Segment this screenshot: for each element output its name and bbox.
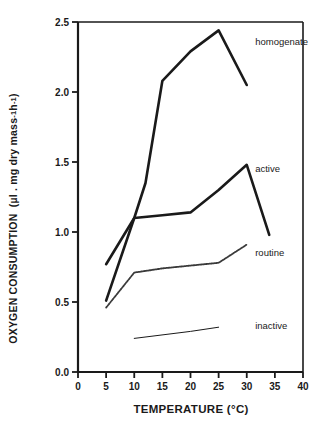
x-axis-label: TEMPERATURE (°C): [78, 403, 304, 415]
y-tick-label: 0.0: [55, 367, 69, 378]
series-line-active: [106, 165, 269, 301]
series-line-homogenate: [106, 30, 247, 264]
x-tick-label: 0: [75, 381, 81, 392]
plot-area: 0.00.51.01.52.02.50510152025303540 homog…: [0, 0, 325, 437]
y-tick-label: 0.5: [55, 297, 69, 308]
y-tick-label: 1.0: [55, 227, 69, 238]
y-tick-label: 1.5: [55, 157, 69, 168]
axis-layer: 0.00.51.01.52.02.50510152025303540: [55, 17, 309, 392]
series-label-routine: routine: [255, 247, 284, 258]
x-tick-label: 10: [129, 381, 141, 392]
series-label-homogenate: homogenate: [255, 36, 308, 47]
y-tick-label: 2.0: [55, 87, 69, 98]
x-tick-label: 30: [241, 381, 253, 392]
x-tick-label: 20: [185, 381, 197, 392]
x-tick-label: 40: [297, 381, 309, 392]
series-line-inactive: [134, 327, 218, 338]
oxygen-consumption-chart: OXYGEN CONSUMPTION (µl . mg dry mass -1 …: [0, 0, 325, 437]
series-label-inactive: inactive: [255, 320, 287, 331]
series-label-layer: homogenateactiveroutineinactive: [255, 36, 308, 331]
series-label-active: active: [255, 163, 280, 174]
series-line-routine: [106, 245, 247, 308]
x-tick-label: 35: [269, 381, 281, 392]
x-tick-label: 5: [103, 381, 109, 392]
x-tick-label: 15: [157, 381, 169, 392]
y-tick-label: 2.5: [55, 17, 69, 28]
series-layer: [106, 30, 269, 338]
x-tick-label: 25: [213, 381, 225, 392]
